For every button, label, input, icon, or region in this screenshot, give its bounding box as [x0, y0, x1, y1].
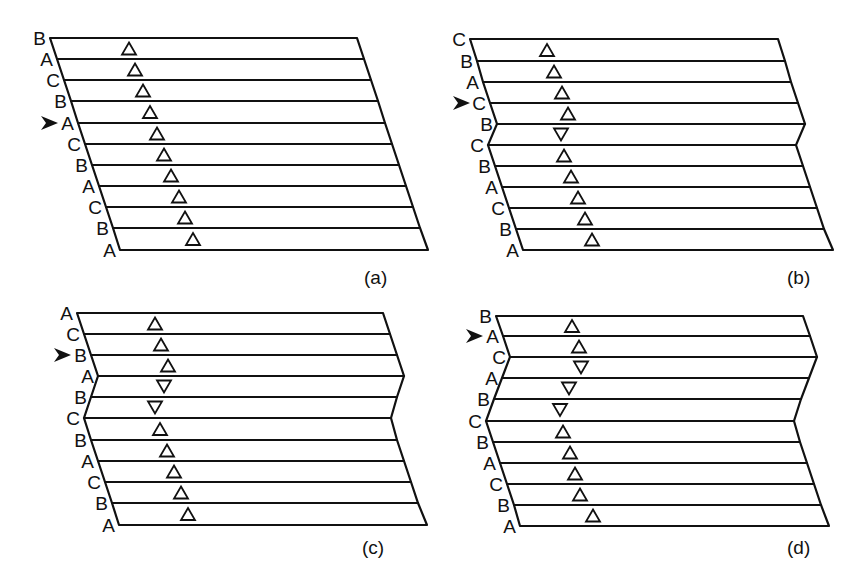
layer-label: B	[75, 155, 88, 176]
layer-label: C	[472, 93, 486, 114]
triangle-up-icon	[561, 108, 575, 120]
layer-label: A	[61, 113, 74, 134]
layer-label: B	[477, 389, 490, 410]
triangle-up-icon	[578, 213, 592, 225]
arrow-pointer-icon	[453, 96, 470, 110]
layer-label: A	[40, 49, 53, 70]
triangle-up-icon	[540, 44, 554, 56]
layer-label: A	[82, 176, 95, 197]
triangle-up-icon	[136, 85, 150, 97]
triangle-up-icon	[556, 426, 570, 438]
layer-label: C	[66, 408, 80, 429]
layer-label: C	[468, 411, 482, 432]
layer-label: C	[470, 135, 484, 156]
triangle-down-icon	[148, 402, 162, 414]
triangle-down-icon	[574, 362, 588, 374]
layer-label: C	[66, 324, 80, 345]
right-edge	[794, 316, 829, 526]
layer-label: C	[46, 70, 60, 91]
triangle-up-icon	[555, 87, 569, 99]
triangle-up-icon	[181, 508, 195, 520]
triangle-up-icon	[186, 233, 200, 245]
arrow-pointer-icon	[41, 116, 58, 130]
layer-label: B	[476, 432, 489, 453]
layer-label: B	[460, 51, 473, 72]
triangle-up-icon	[568, 468, 582, 480]
layer-label: A	[483, 453, 496, 474]
triangle-up-icon	[573, 489, 587, 501]
layer-label: A	[503, 516, 516, 537]
layer-label: C	[88, 197, 102, 218]
triangle-up-icon	[174, 487, 188, 499]
triangle-up-icon	[585, 234, 599, 246]
triangle-up-icon	[586, 510, 600, 522]
panel-c: ACBABCBACBA(c)	[54, 303, 427, 558]
triangle-up-icon	[571, 192, 585, 204]
layer-label: B	[95, 493, 108, 514]
triangle-up-icon	[143, 106, 157, 118]
arrow-pointer-icon	[54, 348, 71, 362]
panel-b: CBACBCBACBA(b)	[452, 29, 833, 288]
panel-caption: (b)	[787, 267, 810, 288]
layer-label: B	[499, 219, 512, 240]
layer-label: C	[452, 29, 466, 50]
layer-label: C	[489, 474, 503, 495]
layer-label: B	[497, 495, 510, 516]
triangle-down-icon	[554, 129, 568, 141]
triangle-up-icon	[572, 341, 586, 353]
layer-label: B	[33, 28, 46, 49]
triangle-up-icon	[161, 360, 175, 372]
triangle-down-icon	[553, 404, 567, 416]
triangle-up-icon	[157, 149, 171, 161]
panel-caption: (d)	[787, 537, 810, 558]
arrow-pointer-icon	[466, 329, 483, 343]
triangle-up-icon	[565, 320, 579, 332]
panel-d: BACABCBACBA(d)	[466, 306, 829, 558]
layer-label: C	[67, 134, 81, 155]
triangle-down-icon	[562, 383, 576, 395]
layer-label: B	[74, 387, 87, 408]
layer-label: A	[60, 303, 73, 324]
layer-label: B	[74, 430, 87, 451]
layer-label: A	[81, 366, 94, 387]
layer-label: B	[478, 156, 491, 177]
layer-label: C	[492, 347, 506, 368]
layer-label: A	[466, 72, 479, 93]
panel-caption: (c)	[362, 537, 384, 558]
triangle-down-icon	[157, 381, 171, 393]
triangle-up-icon	[153, 423, 167, 435]
layer-label: B	[96, 218, 109, 239]
triangle-up-icon	[172, 191, 186, 203]
layer-label: B	[54, 91, 67, 112]
triangle-up-icon	[148, 318, 162, 330]
triangle-up-icon	[128, 64, 142, 76]
layer-label: B	[479, 306, 492, 327]
layer-label: A	[485, 177, 498, 198]
panel-a: BACBACBACBA(a)	[33, 28, 428, 288]
triangle-up-icon	[122, 43, 136, 55]
triangle-up-icon	[547, 66, 561, 78]
triangle-up-icon	[563, 447, 577, 459]
layer-label: A	[486, 326, 499, 347]
layer-label: A	[506, 240, 519, 261]
panel-caption: (a)	[364, 267, 387, 288]
triangle-up-icon	[160, 445, 174, 457]
triangle-up-icon	[154, 339, 168, 351]
triangle-up-icon	[178, 212, 192, 224]
stacking-sequence-figure: BACBACBACBA(a) CBACBCBACBA(b) ACBABCBACB…	[0, 0, 866, 586]
triangle-up-icon	[150, 128, 164, 140]
layer-label: C	[87, 472, 101, 493]
layer-label: B	[480, 114, 493, 135]
triangle-up-icon	[564, 171, 578, 183]
triangle-up-icon	[557, 150, 571, 162]
layer-label: A	[102, 515, 115, 536]
layer-label: A	[81, 451, 94, 472]
layer-label: C	[491, 198, 505, 219]
triangle-up-icon	[167, 466, 181, 478]
layer-label: B	[74, 345, 87, 366]
layer-label: A	[103, 240, 116, 261]
layer-label: A	[485, 368, 498, 389]
triangle-up-icon	[164, 170, 178, 182]
